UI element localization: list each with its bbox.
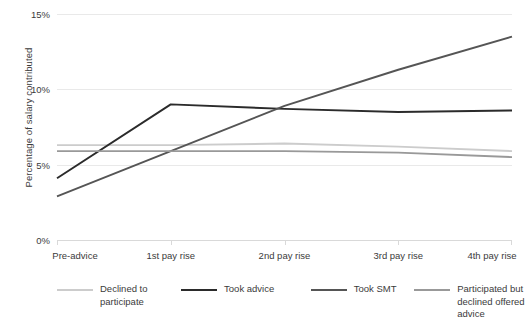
series-line bbox=[57, 104, 512, 178]
legend-label: Took advice bbox=[224, 283, 274, 296]
y-axis-tick-label: 15% bbox=[31, 9, 50, 20]
x-axis-tick-label: 2nd pay rise bbox=[259, 250, 311, 261]
x-axis-tick-label: Pre-advice bbox=[52, 250, 97, 261]
series-line bbox=[57, 151, 512, 157]
x-axis-tick-label: 3rd pay rise bbox=[373, 250, 423, 261]
series-lines bbox=[57, 14, 512, 240]
series-line bbox=[57, 37, 512, 197]
y-axis-tick-label: 0% bbox=[36, 235, 50, 246]
x-axis-tick-label: 4th pay rise bbox=[467, 250, 516, 261]
line-chart: Percentage of salary contributed 0%5%10%… bbox=[0, 0, 532, 330]
y-axis-tick-label: 10% bbox=[31, 84, 50, 95]
legend-swatch bbox=[311, 289, 347, 291]
plot-area: 0%5%10%15% Pre-advice1st pay rise2nd pay… bbox=[57, 14, 512, 240]
y-axis-title: Percentage of salary contributed bbox=[23, 18, 34, 218]
x-axis-tick-mark bbox=[511, 240, 512, 245]
legend-item[interactable]: Declined to participate bbox=[57, 283, 181, 308]
legend-label: Participated but declined offered advice bbox=[457, 283, 527, 321]
x-axis-tick-mark bbox=[57, 240, 58, 245]
legend-swatch bbox=[57, 289, 93, 291]
legend-swatch bbox=[181, 289, 217, 291]
x-axis-tick-mark bbox=[171, 240, 172, 245]
y-axis-tick-label: 5% bbox=[36, 159, 50, 170]
x-axis: Pre-advice1st pay rise2nd pay rise3rd pa… bbox=[57, 240, 512, 270]
legend-item[interactable]: Took advice bbox=[181, 283, 311, 296]
legend-label: Took SMT bbox=[354, 283, 397, 296]
x-axis-tick-mark bbox=[398, 240, 399, 245]
x-axis-tick-mark bbox=[285, 240, 286, 245]
x-axis-tick-label: 1st pay rise bbox=[146, 250, 195, 261]
legend-swatch bbox=[414, 289, 450, 291]
chart-legend: Declined to participateTook adviceTook S… bbox=[57, 283, 527, 327]
legend-item[interactable]: Took SMT bbox=[311, 283, 414, 296]
legend-item[interactable]: Participated but declined offered advice bbox=[414, 283, 527, 321]
series-line bbox=[57, 144, 512, 152]
legend-label: Declined to participate bbox=[100, 283, 181, 308]
